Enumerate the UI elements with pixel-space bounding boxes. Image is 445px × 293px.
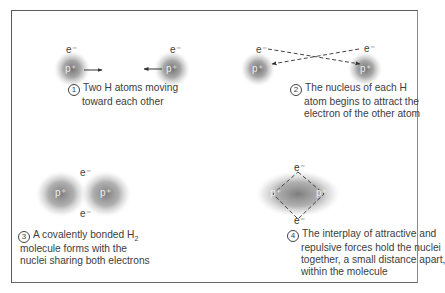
proton-label: p⁺ [270,187,281,198]
proton-label: p⁺ [166,63,177,74]
panel-3-caption: 3A covalently bonded H2 molecule forms w… [18,229,150,267]
shared-electron-label: e⁻ [80,167,91,178]
proton-label: p⁺ [55,187,66,198]
electron-label: e⁻ [364,43,375,54]
step-number-badge: 4 [287,230,299,242]
proton-label: p⁺ [252,63,263,74]
panel-1-caption: 1Two H atoms moving toward each other [68,82,178,108]
shared-electron-label: e⁻ [80,208,91,219]
step-number-badge: 2 [290,84,302,96]
step-number-badge: 3 [18,231,30,243]
proton-label: p⁺ [65,63,76,74]
electron-label: e⁻ [256,44,267,55]
panel-4-caption: 4The interplay of attractive and repulsi… [287,228,445,278]
shared-electron-label: e⁻ [294,215,305,226]
proton-label: p⁺ [100,187,111,198]
electron-label: e⁻ [170,44,181,55]
electron-label: e⁻ [66,44,77,55]
proton-label: p⁺ [316,187,327,198]
shared-electron-label: e⁻ [294,162,305,173]
step-number-badge: 1 [68,84,80,96]
panel-2-caption: 2The nucleus of each H atom begins to at… [290,82,420,120]
proton-label: p⁺ [360,63,371,74]
